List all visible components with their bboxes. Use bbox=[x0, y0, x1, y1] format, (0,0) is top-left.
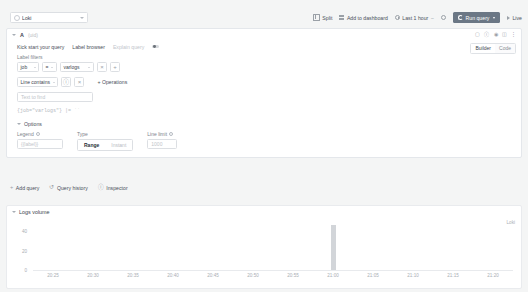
label-filter-key-select[interactable]: job bbox=[17, 62, 39, 72]
add-to-dashboard-button[interactable]: Add to dashboard bbox=[339, 15, 387, 21]
zoom-out-button[interactable] bbox=[441, 15, 446, 20]
chevron-down-icon bbox=[88, 67, 90, 68]
info-icon[interactable]: ⓘ bbox=[484, 32, 489, 37]
line-limit-option: Line limit 1000 bbox=[147, 131, 177, 149]
operations-row: Line contains ⓘ × + Operations bbox=[17, 77, 511, 87]
inspector-label: Inspector bbox=[106, 185, 127, 191]
eye-icon[interactable]: ◉ bbox=[493, 32, 498, 37]
query-row-header: A (uid) ▢ ⓘ ◉ ◫ ⋮ bbox=[7, 29, 521, 41]
operation-info-icon[interactable]: ⓘ bbox=[61, 77, 71, 87]
add-query-button[interactable]: + Add query bbox=[10, 185, 39, 191]
chart-plot-area bbox=[33, 222, 513, 270]
chart-x-tick: 20:30 bbox=[87, 273, 99, 278]
time-range-label: Last 1 hour bbox=[402, 15, 428, 21]
label-filter-value-value: varlogs bbox=[63, 64, 79, 70]
info-icon[interactable] bbox=[169, 132, 173, 136]
label-filter-operator-select[interactable]: = bbox=[42, 62, 57, 72]
explain-query-toggle[interactable] bbox=[152, 45, 159, 49]
legend-label-wrap: Legend bbox=[17, 131, 63, 137]
top-bar: Loki Split Add to dashboard Last 1 hour … bbox=[0, 0, 528, 26]
line-contains-operation[interactable]: Line contains bbox=[17, 77, 58, 87]
chart-x-tick: 20:40 bbox=[167, 273, 179, 278]
add-operations-button[interactable]: + Operations bbox=[93, 79, 131, 85]
query-type-range[interactable]: Range bbox=[78, 140, 105, 150]
copy-icon[interactable]: ▢ bbox=[475, 32, 480, 37]
add-label-filter-button[interactable]: + bbox=[110, 62, 120, 72]
caret-down-icon[interactable] bbox=[493, 17, 495, 19]
datasource-name: Loki bbox=[22, 15, 78, 21]
history-icon: ↺ bbox=[49, 185, 54, 191]
zoom-out-icon bbox=[441, 15, 446, 20]
options-row: Legend {{label}} Type Range Instant bbox=[17, 131, 511, 151]
label-filter-operator-value: = bbox=[46, 64, 49, 70]
remove-operation-button[interactable]: × bbox=[74, 77, 84, 87]
loki-logo-icon bbox=[14, 15, 20, 21]
explain-query-label: Explain query bbox=[113, 44, 144, 50]
query-type-instant[interactable]: Instant bbox=[105, 140, 132, 150]
info-icon[interactable] bbox=[36, 132, 40, 136]
chart-x-tick: 21:00 bbox=[327, 273, 339, 278]
options-section-header[interactable]: Options bbox=[17, 121, 511, 127]
time-range-picker[interactable]: Last 1 hour ~ bbox=[395, 15, 434, 21]
editor-mode-builder[interactable]: Builder bbox=[471, 44, 495, 53]
legend-input[interactable]: {{label}} bbox=[17, 139, 63, 149]
chart-x-axis bbox=[33, 270, 513, 271]
legend-label: Legend bbox=[17, 131, 34, 137]
query-builder-body: Label filters job = varlogs × + bbox=[7, 52, 521, 157]
line-limit-input[interactable]: 1000 bbox=[147, 139, 177, 149]
line-filter-text-input[interactable]: Text to find bbox=[17, 92, 93, 102]
options-title: Options bbox=[24, 121, 42, 127]
refresh-icon bbox=[458, 15, 463, 20]
label-filters-row: job = varlogs × + bbox=[17, 62, 511, 72]
caret-down-icon bbox=[12, 211, 16, 213]
query-history-button[interactable]: ↺ Query history bbox=[49, 185, 87, 191]
trash-icon[interactable]: ◫ bbox=[502, 32, 507, 37]
chart-x-tick: 21:15 bbox=[447, 273, 459, 278]
line-contains-label: Line contains bbox=[21, 79, 50, 85]
live-label: Live bbox=[512, 15, 522, 21]
dashboard-grid-icon bbox=[339, 15, 344, 20]
live-tail-button[interactable]: Live bbox=[507, 15, 522, 21]
kick-start-query-button[interactable]: Kick start your query bbox=[17, 44, 64, 50]
split-label: Split bbox=[322, 15, 332, 21]
chart-x-tick: 20:45 bbox=[207, 273, 219, 278]
split-button[interactable]: Split bbox=[313, 14, 333, 21]
chart-x-tick: 21:05 bbox=[367, 273, 379, 278]
query-ref-id: A bbox=[20, 32, 24, 38]
chart-x-tick: 20:25 bbox=[47, 273, 59, 278]
remove-label-filter-button[interactable]: × bbox=[97, 62, 107, 72]
label-filter-value-select[interactable]: varlogs bbox=[60, 62, 94, 72]
caret-down-icon bbox=[17, 123, 21, 125]
logs-volume-header[interactable]: Logs volume bbox=[7, 206, 521, 215]
chart-y-tick: 0 bbox=[13, 268, 27, 273]
chevron-down-icon bbox=[80, 17, 84, 19]
editor-mode-code[interactable]: Code bbox=[495, 44, 515, 53]
plus-icon: + bbox=[10, 185, 13, 191]
line-limit-placeholder: 1000 bbox=[151, 141, 162, 147]
chevron-down-icon bbox=[34, 67, 36, 68]
query-history-label: Query history bbox=[57, 185, 88, 191]
query-type-toggle[interactable]: Range Instant bbox=[77, 139, 133, 151]
add-query-label: Add query bbox=[16, 185, 40, 191]
editor-mode-toggle[interactable]: Builder Code bbox=[470, 43, 516, 54]
label-browser-button[interactable]: Label browser bbox=[72, 44, 105, 50]
type-label-wrap: Type bbox=[77, 131, 133, 137]
line-filter-placeholder: Text to find bbox=[21, 94, 45, 100]
logs-volume-chart[interactable]: Loki 02040 20:2520:3020:3520:4020:4520:5… bbox=[7, 220, 523, 290]
query-uid: (uid) bbox=[28, 32, 38, 38]
datasource-picker[interactable]: Loki bbox=[10, 12, 88, 23]
query-editor-panel: A (uid) ▢ ⓘ ◉ ◫ ⋮ Kick start your query … bbox=[6, 28, 522, 158]
caret-down-icon[interactable] bbox=[12, 34, 16, 36]
drag-handle-icon[interactable]: ⋮ bbox=[511, 32, 516, 37]
run-query-button[interactable]: Run query bbox=[453, 12, 500, 23]
type-option: Type Range Instant bbox=[77, 131, 133, 151]
run-query-label: Run query bbox=[466, 15, 490, 21]
logs-volume-title: Logs volume bbox=[19, 209, 50, 215]
time-range-separator: ~ bbox=[431, 15, 434, 21]
label-filter-key-value: job bbox=[21, 64, 28, 70]
line-limit-label-wrap: Line limit bbox=[147, 131, 177, 137]
legend-placeholder: {{label}} bbox=[21, 141, 38, 147]
explore-page: Loki Split Add to dashboard Last 1 hour … bbox=[0, 0, 528, 292]
explore-toolbar: Split Add to dashboard Last 1 hour ~ Run… bbox=[313, 11, 522, 24]
inspector-button[interactable]: ⓘ Inspector bbox=[98, 185, 128, 191]
